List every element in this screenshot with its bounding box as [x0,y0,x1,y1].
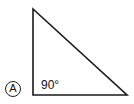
option-label-circle: A [5,81,21,97]
angle-label: 90° [41,78,59,92]
